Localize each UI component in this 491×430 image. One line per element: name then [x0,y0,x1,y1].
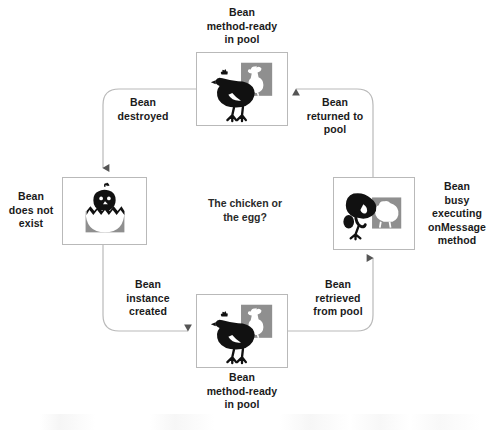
node-top-caption: Bean method-ready in pool [176,6,308,47]
pecking-chicken-panel-icon [334,178,414,249]
diagram-canvas: Bean method-ready in pool Bean does not … [0,0,491,430]
edge-label-bean-retrieved-from-pool: Bean retrieved from pool [300,278,376,319]
node-bean-method-ready-bottom[interactable] [196,294,288,368]
scan-artifact [0,414,491,430]
edge-label-bean-destroyed: Bean destroyed [105,96,181,123]
center-question-label: The chicken or the egg? [185,196,305,224]
node-bean-method-ready-top[interactable] [196,52,288,126]
edge-label-bean-returned-to-pool: Bean returned to pool [297,96,373,137]
edge-label-bean-instance-created: Bean instance created [110,278,186,319]
node-bean-does-not-exist[interactable] [62,177,147,245]
node-left-caption: Bean does not exist [2,190,60,231]
hen-with-rooster-panel-icon [197,53,287,125]
chick-hatching-from-egg-icon [63,178,146,244]
node-bean-busy-executing[interactable] [333,177,415,250]
node-bottom-caption: Bean method-ready in pool [176,371,308,412]
node-right-caption: Bean busy executing onMessage method [424,180,490,248]
hen-with-rooster-panel-icon [197,295,287,367]
